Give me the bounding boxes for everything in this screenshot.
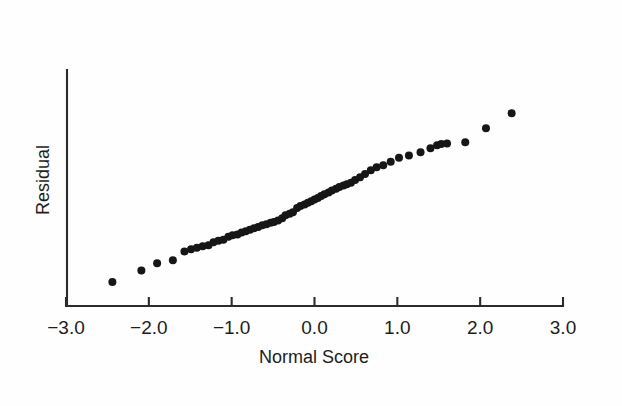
data-point [169, 256, 177, 264]
data-point [461, 138, 469, 146]
x-tick-label: −3.0 [47, 317, 85, 338]
data-point [417, 148, 425, 156]
x-tick-label: 0.0 [301, 317, 327, 338]
data-point [395, 154, 403, 162]
data-point [153, 259, 161, 267]
normal-probability-plot: −3.0−2.0−1.00.01.02.03.0 Normal Score Re… [0, 0, 622, 406]
x-axis-title: Normal Score [259, 347, 369, 367]
scatter-points [108, 109, 515, 286]
data-point [443, 139, 451, 147]
plot-canvas: −3.0−2.0−1.00.01.02.03.0 Normal Score Re… [0, 0, 622, 406]
data-point [137, 267, 145, 275]
data-point [508, 109, 516, 117]
x-tick-label: 1.0 [384, 317, 410, 338]
x-tick-label: −2.0 [130, 317, 168, 338]
data-point [379, 161, 387, 169]
x-axis-ticks: −3.0−2.0−1.00.01.02.03.0 [47, 297, 576, 338]
data-point [405, 152, 413, 160]
x-tick-label: −1.0 [213, 317, 251, 338]
x-tick-label: 2.0 [467, 317, 493, 338]
x-tick-label: 3.0 [550, 317, 576, 338]
data-point [482, 124, 490, 132]
y-axis-title: Residual [33, 145, 53, 215]
data-point [387, 158, 395, 166]
data-point [108, 278, 116, 286]
